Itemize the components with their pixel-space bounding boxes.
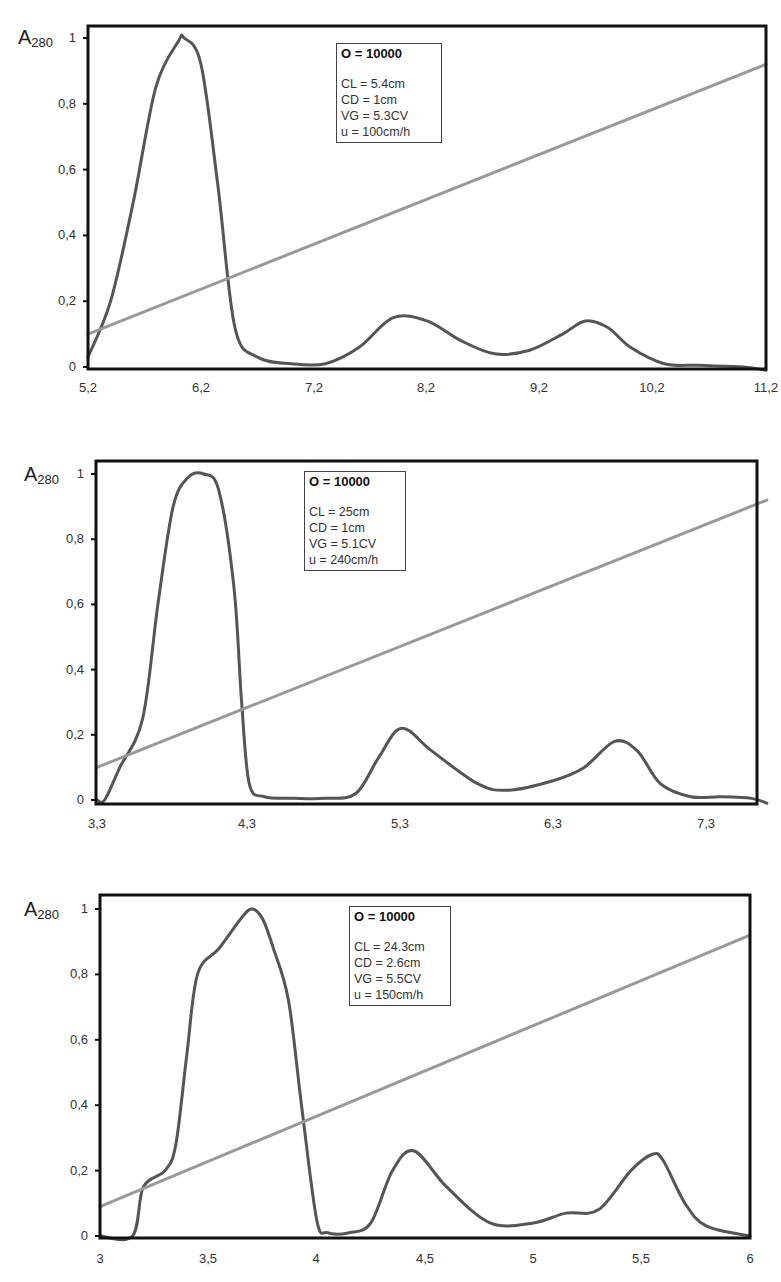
chart-canvas: 00,20,40,60,815,26,27,28,29,210,211,2A28… <box>0 0 781 1282</box>
x-tick-label: 5,2 <box>79 380 97 395</box>
y-tick-label: 0,4 <box>70 1097 88 1112</box>
x-tick-label: 4 <box>312 1251 319 1266</box>
annotation-line: u = 150cm/h <box>354 987 446 1003</box>
annotation-line: CL = 25cm <box>309 504 401 520</box>
annotation-header: O = 10000 <box>354 909 446 925</box>
x-tick-label: 5,5 <box>632 1251 650 1266</box>
y-tick-label: 0,2 <box>66 727 84 742</box>
y-tick-label: 0,2 <box>70 1163 88 1178</box>
annotation-line: VG = 5.1CV <box>309 536 401 552</box>
y-axis-label: A280 <box>24 463 59 487</box>
x-tick-label: 5,3 <box>391 816 409 831</box>
y-tick-label: 1 <box>69 30 76 45</box>
y-tick-label: 0,6 <box>58 162 76 177</box>
x-tick-label: 3,3 <box>88 816 106 831</box>
annotation-line: u = 100cm/h <box>341 124 437 140</box>
y-tick-label: 0 <box>81 1228 88 1243</box>
y-tick-label: 0,6 <box>70 1032 88 1047</box>
x-tick-label: 7,2 <box>305 380 323 395</box>
x-tick-label: 3,5 <box>199 1251 217 1266</box>
annotation-line: CD = 1cm <box>309 520 401 536</box>
x-tick-label: 6,2 <box>192 380 210 395</box>
annotation-box: O = 10000 CL = 24.3cm CD = 2.6cm VG = 5.… <box>349 906 451 1006</box>
x-tick-label: 7,3 <box>697 816 715 831</box>
y-tick-label: 0,2 <box>58 293 76 308</box>
gradient-line <box>97 500 767 767</box>
y-tick-label: 0,4 <box>66 662 84 677</box>
x-tick-label: 6 <box>746 1251 753 1266</box>
x-tick-label: 9,2 <box>530 380 548 395</box>
x-tick-label: 11,2 <box>754 380 778 395</box>
y-tick-label: 0 <box>77 792 84 807</box>
y-tick-label: 0,8 <box>70 966 88 981</box>
y-tick-label: 0,4 <box>58 227 76 242</box>
x-tick-label: 6,3 <box>544 816 562 831</box>
y-tick-label: 1 <box>77 466 84 481</box>
absorbance-curve <box>97 473 767 804</box>
x-tick-label: 4,3 <box>238 816 256 831</box>
x-tick-label: 4,5 <box>416 1251 434 1266</box>
annotation-header: O = 10000 <box>309 474 401 490</box>
y-axis-label: A280 <box>24 898 59 922</box>
annotation-header: O = 10000 <box>341 46 437 62</box>
annotation-line: VG = 5.3CV <box>341 108 437 124</box>
annotation-line: CD = 1cm <box>341 92 437 108</box>
annotation-box: O = 10000 CL = 25cm CD = 1cm VG = 5.1CV … <box>304 471 406 571</box>
annotation-line: u = 240cm/h <box>309 552 401 568</box>
annotation-line: CL = 5.4cm <box>341 76 437 92</box>
x-tick-label: 8,2 <box>417 380 435 395</box>
y-tick-label: 1 <box>81 901 88 916</box>
x-tick-label: 10,2 <box>639 380 664 395</box>
annotation-box: O = 10000 CL = 5.4cm CD = 1cm VG = 5.3CV… <box>336 43 442 143</box>
y-tick-label: 0,8 <box>58 96 76 111</box>
x-tick-label: 3 <box>96 1251 103 1266</box>
y-tick-label: 0,8 <box>66 531 84 546</box>
annotation-line: VG = 5.5CV <box>354 971 446 987</box>
y-axis-label: A280 <box>18 26 53 50</box>
y-tick-label: 0,6 <box>66 596 84 611</box>
annotation-line: CL = 24.3cm <box>354 939 446 955</box>
plot-frame <box>96 461 757 804</box>
annotation-line: CD = 2.6cm <box>354 955 446 971</box>
x-tick-label: 5 <box>529 1251 536 1266</box>
y-tick-label: 0 <box>69 359 76 374</box>
